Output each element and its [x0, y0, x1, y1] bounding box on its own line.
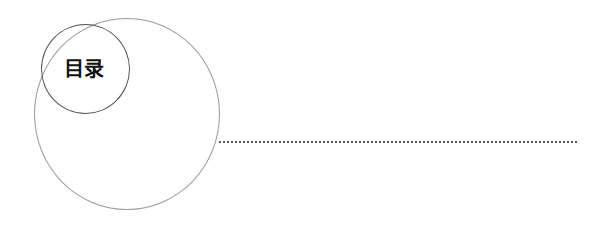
dotted-leader-line [219, 141, 577, 143]
page-title: 目录 [64, 57, 114, 81]
toc-header: 目录 [0, 0, 606, 228]
